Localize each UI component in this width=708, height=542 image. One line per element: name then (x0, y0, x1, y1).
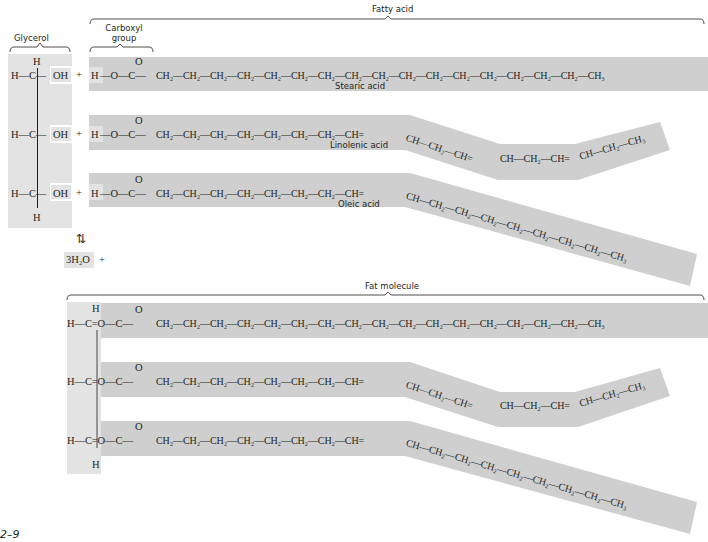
equilibrium-arrows-icon: ⇅ (76, 232, 86, 247)
acid-h-2: H (91, 129, 98, 140)
fat-carbonyl-o-2: O (135, 362, 142, 373)
fat-top-h: H (92, 303, 99, 314)
glycerol-row-3: H—C— (11, 188, 46, 199)
glycerol-bottom-h: H (33, 212, 40, 223)
glycerol-top-h: H (33, 56, 40, 67)
acid-head-3: —O—C— (100, 188, 146, 199)
oh-3: OH (53, 188, 68, 199)
fat-ester-1: H—C=O—C— (67, 318, 133, 329)
acid-head-1: —O—C— (100, 70, 146, 81)
plus-2: + (76, 128, 82, 139)
carbonyl-o-2: O (135, 115, 142, 126)
fatty-acid-label: Fatty acid (372, 4, 413, 14)
acid-h-1: H (91, 70, 98, 81)
linolenic-seg-2: CH—CH₂—CH= (500, 153, 570, 164)
stearic-label: Stearic acid (335, 81, 385, 91)
plus-3: + (76, 187, 82, 198)
carboxyl-label: Carboxyl group (104, 23, 144, 43)
fat-ester-2: H—C=O—C— (67, 376, 133, 387)
glycerol-row-1: H—C— (11, 70, 46, 81)
plus-1: + (76, 69, 82, 80)
acid-h-3: H (91, 188, 98, 199)
carbonyl-o-3: O (135, 174, 142, 185)
carbonyl-o-1: O (135, 56, 142, 67)
linolenic-label: Linolenic acid (330, 140, 388, 150)
fat-carbonyl-o-3: O (135, 421, 142, 432)
oh-1: OH (53, 70, 68, 81)
figure-number: 2–9 (0, 528, 20, 541)
fatty-acid-brace (90, 16, 704, 24)
oleic-straight: CH₂—CH₂—CH₂—CH₂—CH₂—CH₂—CH₂—CH= (156, 188, 364, 199)
glycerol-label: Glycerol (14, 33, 49, 43)
fat-oleic-straight: CH₂—CH₂—CH₂—CH₂—CH₂—CH₂—CH₂—CH= (156, 435, 364, 446)
glycerol-brace (10, 43, 70, 52)
oh-2: OH (53, 129, 68, 140)
carboxyl-brace (90, 44, 153, 52)
fat-ester-3: H—C=O—C— (67, 435, 133, 446)
water-plus: + (99, 254, 105, 265)
linolenic-straight: CH₂—CH₂—CH₂—CH₂—CH₂—CH₂—CH₂—CH= (156, 129, 364, 140)
water: 3H₂O (66, 254, 90, 265)
fat-molecule-label: Fat molecule (365, 281, 419, 291)
glycerol-row-2: H—C— (11, 129, 46, 140)
fat-carbonyl-o-1: O (135, 304, 142, 315)
fat-bottom-h: H (92, 459, 99, 470)
fat-stearic-chain: CH₂—CH₂—CH₂—CH₂—CH₂—CH₂—CH₂—CH₂—CH₂—CH₂—… (156, 318, 605, 329)
acid-head-2: —O—C— (100, 129, 146, 140)
fat-linolenic-straight: CH₂—CH₂—CH₂—CH₂—CH₂—CH₂—CH₂—CH= (156, 376, 364, 387)
stearic-chain: CH₂—CH₂—CH₂—CH₂—CH₂—CH₂—CH₂—CH₂—CH₂—CH₂—… (156, 70, 605, 81)
fat-molecule-brace (67, 292, 704, 300)
oleic-label: Oleic acid (338, 199, 380, 209)
fat-linolenic-seg-2: CH—CH₂—CH= (500, 400, 570, 411)
